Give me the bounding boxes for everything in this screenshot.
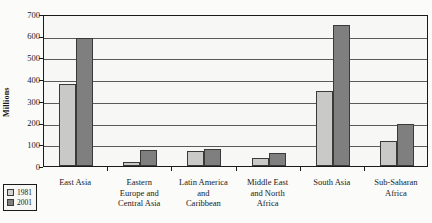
x-axis-category-label: Sub-SaharanAfrica — [364, 177, 428, 198]
y-axis-tick-label: 600 — [27, 32, 43, 41]
x-axis-category-label: South Asia — [300, 177, 364, 188]
x-axis-tick — [364, 167, 365, 171]
gridline — [44, 81, 427, 82]
y-axis-tick-label: 100 — [27, 141, 43, 150]
bar-1981-south-asia — [316, 91, 333, 166]
bar-1981-eastern-europe-and-central-asia — [123, 162, 140, 166]
x-axis-category-line: Latin America — [171, 177, 235, 188]
y-axis-title: Millions — [1, 72, 13, 132]
gridline — [44, 59, 427, 60]
x-axis-category-line: Sub-Saharan — [364, 177, 428, 188]
legend: 19812001 — [3, 184, 37, 211]
legend-item-1981[interactable]: 1981 — [7, 188, 32, 197]
legend-item-label: 2001 — [17, 199, 32, 207]
bar-1981-latin-america-and-caribbean — [187, 151, 204, 166]
x-axis-category-label: Middle Eastand NorthAfrica — [236, 177, 300, 209]
y-axis-tick-label: 200 — [27, 119, 43, 128]
x-axis-category-line: Middle East — [236, 177, 300, 188]
legend-item-2001[interactable]: 2001 — [7, 198, 32, 207]
x-axis-category-label: East Asia — [43, 177, 107, 188]
x-axis-category-line: East Asia — [43, 177, 107, 188]
legend-swatch-icon — [7, 189, 14, 196]
y-axis-tick-label: 400 — [27, 75, 43, 84]
bar-1981-east-asia — [59, 84, 76, 167]
bar-1981-middle-east-and-north-africa — [252, 158, 269, 166]
x-axis-category-line: Europe and — [107, 188, 171, 199]
bar-2001-middle-east-and-north-africa — [269, 153, 286, 166]
plot-area — [43, 15, 428, 167]
y-axis-tick-label: 700 — [27, 10, 43, 19]
x-axis-category-label: Latin AmericaandCaribbean — [171, 177, 235, 209]
gridline — [44, 146, 427, 147]
bar-2001-south-asia — [333, 25, 350, 166]
legend-swatch-icon — [7, 199, 14, 206]
x-axis-category-line: South Asia — [300, 177, 364, 188]
x-axis-category-label: EasternEurope andCentral Asia — [107, 177, 171, 209]
gridline — [44, 38, 427, 39]
x-axis-tick — [236, 167, 237, 171]
x-axis-tick — [171, 167, 172, 171]
bar-1981-sub-saharan-africa — [380, 141, 397, 166]
x-axis-category-line: and — [171, 188, 235, 199]
chart-figure: Millions 0100200300400500600700 East Asi… — [0, 0, 432, 223]
x-axis-category-line: Africa — [236, 198, 300, 209]
y-axis-tick-label: 300 — [27, 97, 43, 106]
legend-item-label: 1981 — [17, 189, 32, 197]
x-axis-category-line: Eastern — [107, 177, 171, 188]
bar-2001-eastern-europe-and-central-asia — [140, 150, 157, 166]
gridline — [44, 103, 427, 104]
x-axis-tick — [300, 167, 301, 171]
x-axis-category-line: Africa — [364, 188, 428, 199]
x-axis-tick — [107, 167, 108, 171]
x-axis-category-line: and North — [236, 188, 300, 199]
x-axis-category-line: Central Asia — [107, 198, 171, 209]
y-axis-tick-label: 500 — [27, 54, 43, 63]
x-axis-category-line: Caribbean — [171, 198, 235, 209]
bar-2001-latin-america-and-caribbean — [204, 149, 221, 166]
gridline — [44, 125, 427, 126]
y-axis-tick-label: 0 — [36, 162, 43, 171]
bar-2001-east-asia — [76, 38, 93, 166]
bar-2001-sub-saharan-africa — [397, 124, 414, 166]
